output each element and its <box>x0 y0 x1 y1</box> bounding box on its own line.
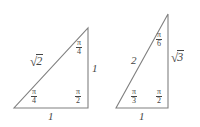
bottom-left-angle-numerator: π <box>131 88 137 96</box>
left-triangle-base-label: 1 <box>48 111 54 122</box>
right-triangle-apex-angle-label: π 6 <box>156 31 162 49</box>
apex-angle-denominator: 6 <box>156 39 162 48</box>
right-triangle-right-angle-label: π 2 <box>156 88 162 106</box>
right-angle-denominator: 2 <box>75 96 81 105</box>
left-triangle-bottom-left-angle-label: π 4 <box>31 88 37 106</box>
right-triangle-base-label: 1 <box>139 111 145 122</box>
bottom-left-angle-numerator: π <box>31 88 37 96</box>
left-triangle-hypotenuse-value: 2 <box>36 54 43 67</box>
left-triangle-vertical-leg-label: 1 <box>92 63 98 74</box>
right-angle-denominator: 2 <box>156 96 162 105</box>
bottom-left-angle-denominator: 4 <box>31 96 37 105</box>
left-triangle-right-angle-label: π 2 <box>75 88 81 106</box>
right-angle-numerator: π <box>156 88 162 96</box>
right-triangle-vertical-leg-value: 3 <box>177 50 184 63</box>
apex-angle-numerator: π <box>156 31 162 39</box>
apex-angle-numerator: π <box>76 39 82 47</box>
figure-canvas: √2 1 1 π 4 π 4 π 2 2 √3 1 π 6 π 3 π 2 <box>0 0 200 127</box>
right-triangle-vertical-leg-label: √3 <box>171 50 184 64</box>
right-angle-numerator: π <box>75 88 81 96</box>
apex-angle-denominator: 4 <box>76 47 82 56</box>
left-triangle-apex-angle-label: π 4 <box>76 39 82 57</box>
right-triangle-hypotenuse-label: 2 <box>131 55 137 66</box>
right-triangle-bottom-left-angle-label: π 3 <box>131 88 137 106</box>
bottom-left-angle-denominator: 3 <box>131 96 137 105</box>
left-triangle-hypotenuse-label: √2 <box>30 54 43 68</box>
